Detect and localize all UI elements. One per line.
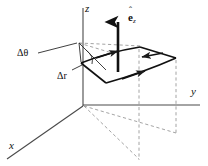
y-axis-label: y	[191, 86, 196, 97]
hat-accent-icon: ˆ	[128, 6, 133, 15]
unit-vector-subscript: z	[133, 17, 136, 25]
diagram-background	[0, 0, 208, 166]
unit-vector-ez-base: ˆ e	[128, 12, 133, 23]
z-axis-label: z	[85, 3, 89, 14]
delta-theta-label: Δθ	[17, 48, 28, 58]
coordinate-diagram	[0, 0, 208, 166]
delta-r-label: Δr	[57, 71, 67, 81]
x-axis-label: x	[9, 140, 14, 151]
unit-vector-ez-label: ˆ e z	[128, 12, 136, 25]
